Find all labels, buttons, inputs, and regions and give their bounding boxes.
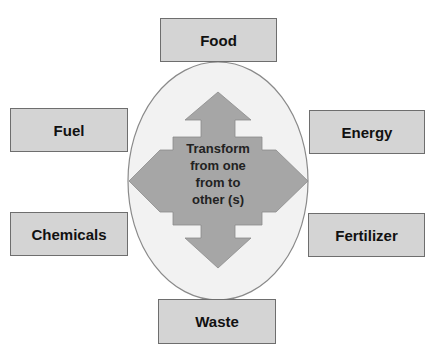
node-label: Fertilizer — [335, 227, 398, 244]
hub-label: Transform from one from to other (s) — [168, 140, 268, 208]
node-fuel: Fuel — [10, 108, 128, 152]
node-energy: Energy — [309, 110, 425, 154]
node-label: Fuel — [54, 122, 85, 139]
node-fertilizer: Fertilizer — [308, 213, 425, 257]
hub-label-line: Transform — [168, 140, 268, 157]
node-food: Food — [160, 18, 277, 62]
node-label: Waste — [195, 313, 239, 330]
node-chemicals: Chemicals — [10, 212, 128, 256]
node-waste: Waste — [158, 299, 276, 344]
hub-label-line: other (s) — [168, 191, 268, 208]
node-label: Energy — [342, 124, 393, 141]
hub-label-line: from to — [168, 174, 268, 191]
node-label: Chemicals — [31, 226, 106, 243]
hub-label-line: from one — [168, 157, 268, 174]
node-label: Food — [200, 32, 237, 49]
